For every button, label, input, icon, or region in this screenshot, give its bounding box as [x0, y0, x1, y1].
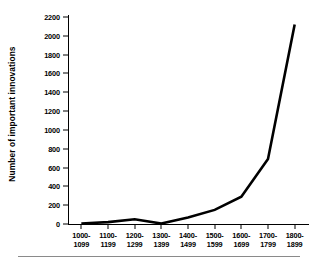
x-axis-tick-label: 1600-1699 [232, 231, 250, 249]
x-axis-tick-label-line: 1000- [72, 231, 90, 240]
y-axis-tick-label: 1800 [44, 50, 60, 59]
x-axis-tick-label-line: 1300- [152, 231, 170, 240]
x-axis-tick-label-line: 1500- [206, 231, 224, 240]
x-axis-tick-label: 1700-1799 [259, 231, 277, 249]
x-axis-tick-mark [108, 225, 109, 229]
x-axis-tick-mark [161, 225, 162, 229]
x-axis-tick-label: 1400-1499 [179, 231, 197, 249]
y-axis-tick-label: 1000 [44, 125, 60, 134]
x-axis-tick-mark [81, 225, 82, 229]
y-axis-title: Number of important innovations [0, 0, 24, 228]
y-axis-tick-label: 2000 [44, 31, 60, 40]
x-axis-tick-label-line: 1400- [179, 231, 197, 240]
x-axis-tick-label-line: 1399 [152, 240, 170, 249]
x-axis-tick-mark [188, 225, 189, 229]
x-axis-tick-label-line: 1899 [286, 240, 304, 249]
x-axis-tick-label-line: 1100- [99, 231, 117, 240]
x-axis-tick-label-line: 1299 [126, 240, 144, 249]
x-axis-tick-label-line: 1600- [232, 231, 250, 240]
x-axis-tick-label-line: 1599 [206, 240, 224, 249]
y-axis-tick-label: 1400 [44, 88, 60, 97]
x-axis-tick-label-line: 1099 [72, 240, 90, 249]
x-axis-tick-label-line: 1499 [179, 240, 197, 249]
plot-area [68, 17, 308, 224]
x-axis-tick-label-line: 1699 [232, 240, 250, 249]
y-axis-tick-label: 1600 [44, 69, 60, 78]
y-axis-title-text: Number of important innovations [7, 46, 17, 181]
x-axis-tick-label: 1200-1299 [126, 231, 144, 249]
y-axis-tick-label: 1200 [44, 107, 60, 116]
series-polyline [81, 25, 294, 224]
y-axis-tick-label: 0 [56, 220, 60, 229]
x-axis-tick-label-line: 1199 [99, 240, 117, 249]
y-axis-tick-label: 2200 [44, 13, 60, 22]
x-axis-tick-label-line: 1200- [126, 231, 144, 240]
x-axis-tick-group: 1000-10991100-11991200-12991300-13991400… [68, 225, 308, 265]
x-axis-tick-mark [268, 225, 269, 229]
y-axis-tick-label: 800 [48, 144, 60, 153]
x-axis-tick-label: 1500-1599 [206, 231, 224, 249]
y-axis-tick-label: 400 [48, 182, 60, 191]
x-axis-tick-label: 1300-1399 [152, 231, 170, 249]
y-axis-tick-label: 600 [48, 163, 60, 172]
x-axis-tick-mark [294, 225, 295, 229]
chart-figure: Number of important innovations 02004006… [0, 0, 315, 268]
x-axis-tick-label-line: 1800- [286, 231, 304, 240]
x-axis-tick-mark [241, 225, 242, 229]
x-axis-tick-label-line: 1700- [259, 231, 277, 240]
y-axis-tick-label: 200 [48, 201, 60, 210]
footer-divider [18, 256, 300, 257]
x-axis-tick-label: 1000-1099 [72, 231, 90, 249]
x-axis-tick-label: 1100-1199 [99, 231, 117, 249]
x-axis-tick-label-line: 1799 [259, 240, 277, 249]
x-axis-tick-mark [134, 225, 135, 229]
x-axis-tick-label: 1800-1899 [286, 231, 304, 249]
x-axis-tick-mark [214, 225, 215, 229]
innovations-line-series [68, 17, 308, 224]
y-axis-tick-group: 0200400600800100012001400160018002000220… [24, 0, 68, 268]
